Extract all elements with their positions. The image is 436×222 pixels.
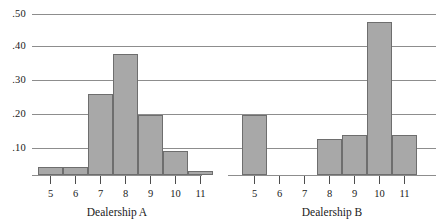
x-tick-label-a-10: 10	[163, 189, 188, 200]
x-tick-b-11	[404, 176, 405, 184]
x-tick-a-5	[50, 176, 51, 184]
x-tick-label-b-8: 8	[317, 189, 342, 200]
bar-a-8	[113, 54, 138, 175]
x-tick-a-11	[200, 176, 201, 184]
x-tick-label-b-5: 5	[242, 189, 267, 200]
x-tick-label-b-6: 6	[267, 189, 292, 200]
x-tick-label-b-10: 10	[367, 189, 392, 200]
y-tick-label-10: .10	[12, 143, 26, 154]
x-tick-label-a-8: 8	[113, 189, 138, 200]
x-tick-a-9	[150, 176, 151, 184]
bar-b-10	[367, 22, 392, 175]
x-tick-b-7	[304, 176, 305, 184]
bar-a-7	[88, 94, 113, 175]
x-tick-label-a-6: 6	[63, 189, 88, 200]
bar-a-11	[188, 171, 213, 175]
plot-area-a	[32, 0, 202, 176]
bar-a-9	[138, 115, 163, 175]
y-tick-label-20: .20	[12, 109, 26, 120]
x-tick-b-5	[254, 176, 255, 184]
y-axis: .50 .40 .30 .20 .10	[0, 0, 26, 222]
bar-a-5	[38, 167, 63, 175]
panel-title-b: Dealership B	[228, 207, 436, 219]
x-tick-b-8	[329, 176, 330, 184]
bar-a-10	[163, 151, 188, 175]
panel-title-a: Dealership A	[32, 207, 202, 219]
x-tick-a-7	[100, 176, 101, 184]
x-tick-label-b-11: 11	[392, 189, 417, 200]
x-tick-label-a-7: 7	[88, 189, 113, 200]
bar-b-5	[242, 115, 267, 175]
x-tick-a-10	[175, 176, 176, 184]
bar-b-11	[392, 135, 417, 175]
bar-b-8	[317, 139, 342, 175]
bar-a-6	[63, 167, 88, 175]
histogram-figure: .50 .40 .30 .20 .10 5 6 7 8 9	[0, 0, 436, 222]
x-tick-label-b-9: 9	[342, 189, 367, 200]
x-tick-label-a-9: 9	[138, 189, 163, 200]
plot-area-b	[228, 0, 436, 176]
y-tick-label-50: .50	[12, 9, 26, 20]
x-tick-a-8	[125, 176, 126, 184]
x-tick-b-10	[379, 176, 380, 184]
y-tick-label-40: .40	[12, 41, 26, 52]
x-tick-label-a-11: 11	[188, 189, 213, 200]
x-tick-a-6	[75, 176, 76, 184]
x-tick-label-b-7: 7	[292, 189, 317, 200]
bar-b-9	[342, 135, 367, 175]
x-tick-b-9	[354, 176, 355, 184]
x-tick-label-a-5: 5	[38, 189, 63, 200]
panel-dealership-b: 5 6 7 8 9 10 11 Dealership B	[228, 0, 436, 222]
y-tick-label-30: .30	[12, 75, 26, 86]
panel-dealership-a: 5 6 7 8 9 10 11 Dealership A	[32, 0, 202, 222]
x-tick-b-6	[279, 176, 280, 184]
